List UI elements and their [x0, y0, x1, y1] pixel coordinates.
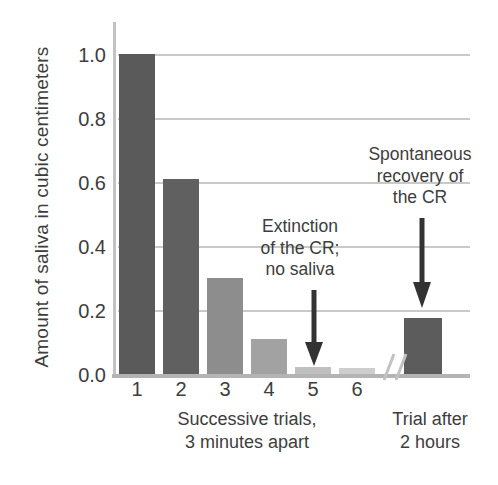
annotation-extinction: Extinction of the CR; no saliva [246, 216, 354, 281]
bar-trial-5 [295, 367, 331, 374]
gridline-0.8 [118, 118, 470, 120]
x-axis-caption-left: Successive trials, 3 minutes apart [118, 408, 376, 453]
y-axis-tick-4: 0.8 [50, 108, 106, 131]
y-axis-tick-0: 0.0 [50, 364, 106, 387]
x-axis-tick-4: 4 [252, 378, 286, 401]
x-axis-tick-1: 1 [120, 378, 154, 401]
x-axis-tick-5: 5 [296, 378, 330, 401]
bar-trial-1 [119, 54, 155, 374]
gridline-1.0 [118, 54, 470, 56]
axis-break-icon [374, 352, 414, 382]
y-axis-tick-2: 0.4 [50, 236, 106, 259]
bar-trial-4 [251, 339, 287, 374]
x-axis-tick-3: 3 [208, 378, 242, 401]
y-axis-tick-3: 0.6 [50, 172, 106, 195]
arrow-down-extinction-icon [303, 290, 325, 368]
y-axis-tick-5: 1.0 [50, 44, 106, 67]
y-axis-line [113, 22, 116, 376]
y-axis-tick-group: 0.0 0.2 0.4 0.6 0.8 1.0 [50, 0, 106, 485]
x-axis-caption-right: Trial after 2 hours [370, 408, 490, 453]
annotation-spontaneous-recovery: Spontaneous recovery of the CR [350, 144, 490, 209]
y-axis-tick-1: 0.2 [50, 300, 106, 323]
bar-trial-2 [163, 179, 199, 374]
x-axis-tick-2: 2 [164, 378, 198, 401]
bar-trial-6 [339, 368, 375, 374]
bar-trial-3 [207, 278, 243, 374]
arrow-down-recovery-icon [411, 218, 433, 310]
bar-chart: Amount of saliva in cubic centimeters 0.… [0, 0, 498, 485]
x-axis-tick-6: 6 [340, 378, 374, 401]
